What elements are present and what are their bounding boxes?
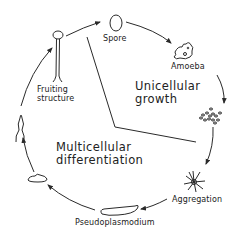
amoeba-label: Amoeba	[171, 62, 205, 71]
arrow-fruiting-to-spore	[66, 22, 100, 36]
aggregation-label: Aggregation	[172, 195, 222, 204]
fruiting-structure-label-line2: structure	[37, 94, 74, 103]
amoeba-icon	[174, 43, 193, 59]
fruiting-structure-label-line1: Fruiting	[37, 85, 68, 94]
unicellular-region-label-line2: growth	[135, 93, 177, 106]
pseudoplasmodium-label: Pseudoplasmodium	[75, 218, 155, 227]
spore-icon	[110, 15, 122, 31]
aggregating-cells-icon	[199, 108, 221, 124]
arrow-spore-to-amoeba	[126, 22, 171, 43]
spore-label: Spore	[103, 34, 127, 43]
culminant-icon	[16, 115, 24, 142]
arrow-streams-to-aggregation	[206, 127, 213, 164]
arrow-amoeba-to-streams	[217, 75, 224, 103]
arrow-mound-to-culminant	[23, 138, 34, 172]
multicellular-region-label-line2: differentiation	[56, 154, 143, 167]
mound-icon	[28, 174, 47, 182]
pseudoplasmodium-icon	[101, 205, 138, 215]
arrow-slug-to-mound	[48, 185, 95, 210]
fruiting-structure-icon	[53, 31, 63, 82]
life-cycle-diagram: Spore Amoeba Aggregation Pseudoplasmodiu…	[0, 0, 231, 235]
aggregation-center-icon	[184, 171, 205, 192]
arrow-aggregation-to-slug	[141, 199, 167, 209]
